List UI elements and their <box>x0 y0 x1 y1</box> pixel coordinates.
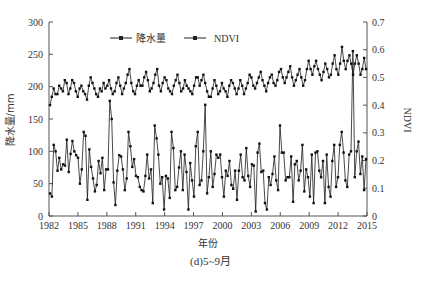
x-tick-label: 1982 <box>39 220 59 231</box>
x-tick-label: 1994 <box>155 220 175 231</box>
x-tick-label: 1985 <box>68 220 88 231</box>
x-tick-label: 2003 <box>241 220 261 231</box>
y-tick-label: 50 <box>33 178 43 189</box>
legend: 降水量 NDVI <box>110 32 239 44</box>
x-axis-label: 年份 <box>198 237 218 249</box>
y-tick-label: 250 <box>28 49 43 60</box>
x-tick-label: 1991 <box>126 220 146 231</box>
x-tick-label: 2006 <box>270 220 290 231</box>
x-tick-label: 2015 <box>357 220 377 231</box>
y2-axis-label: NDVI <box>402 108 413 133</box>
y2-tick-label: 0.7 <box>372 17 385 28</box>
x-tick-label: 1988 <box>97 220 117 231</box>
x-tick-label: 1997 <box>184 220 204 231</box>
legend-label-precip: 降水量 <box>136 32 166 44</box>
x-tick-label: 2012 <box>328 220 348 231</box>
axes: 05010015020025030000.10.20.30.40.50.60.7… <box>28 17 385 232</box>
figure-caption: (d)5~9月 <box>0 252 421 268</box>
x-tick-label: 2009 <box>299 220 319 231</box>
y2-tick-label: 0.4 <box>372 100 385 111</box>
y-tick-label: 300 <box>28 17 43 28</box>
legend-marker-ndvi-icon <box>193 36 197 40</box>
y-tick-label: 200 <box>28 81 43 92</box>
y2-tick-label: 0.5 <box>372 72 385 83</box>
x-tick-label: 2000 <box>212 220 232 231</box>
legend-label-ndvi: NDVI <box>214 33 239 44</box>
series-layer <box>49 46 367 213</box>
legend-marker-precip-icon <box>119 36 123 40</box>
dual-axis-line-chart: 05010015020025030000.10.20.30.40.50.60.7… <box>0 0 421 281</box>
y2-tick-label: 0.3 <box>372 127 385 138</box>
y2-tick-label: 0.1 <box>372 183 385 194</box>
y2-tick-label: 0.6 <box>372 44 385 55</box>
y2-tick-label: 0.2 <box>372 155 385 166</box>
y-tick-label: 150 <box>28 114 43 125</box>
y-tick-label: 100 <box>28 146 43 157</box>
y-axis-label: 降水量/mm <box>4 94 16 147</box>
